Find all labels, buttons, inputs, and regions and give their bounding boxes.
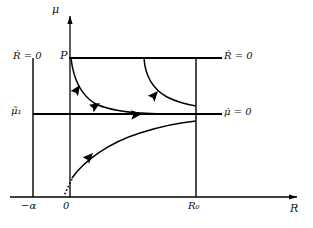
point-label-P: P — [60, 50, 67, 61]
x-axis-label: R — [290, 203, 298, 214]
y-tick-label-mu1: μ̃₁ — [11, 106, 22, 116]
nullcline-label-rdot-zero-left: Ṙ = 0 — [13, 51, 42, 61]
trajectory-upper-right — [144, 58, 196, 106]
trajectory-upper-left — [71, 58, 196, 114]
arrow-upper-right — [148, 88, 162, 102]
phase-plane-figure: μ Ṙ = 0 P Ṙ = 0 μ̃₁ μ̇ = 0 −α 0 R₀ R — [0, 0, 313, 228]
trajectories-group — [64, 58, 196, 196]
nullcline-label-rdot-zero-right: Ṙ = 0 — [224, 51, 253, 61]
nullclines-group — [33, 58, 222, 197]
trajectory-lower — [72, 121, 196, 178]
arrow-lower-trajectory — [83, 150, 97, 164]
x-axis-arrowhead — [289, 194, 297, 199]
x-tick-label-neg-alpha: −α — [21, 201, 36, 211]
phase-plane-canvas — [0, 0, 313, 228]
y-axis-label: μ — [52, 4, 59, 15]
y-axis-arrowhead — [67, 16, 72, 24]
trajectory-dotted-stub — [64, 179, 72, 196]
nullcline-label-mudot-zero: μ̇ = 0 — [224, 107, 252, 117]
x-tick-label-R0: R₀ — [188, 201, 200, 211]
axes-group — [10, 16, 297, 200]
x-tick-label-origin: 0 — [63, 201, 69, 211]
arrow-upper-left-upper — [71, 83, 85, 97]
